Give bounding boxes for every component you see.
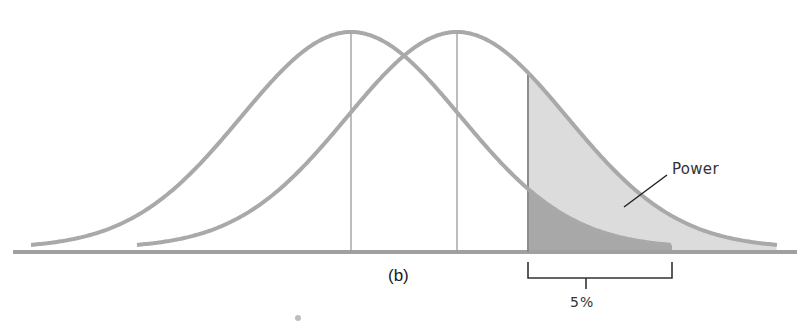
power-label: Power bbox=[672, 160, 719, 178]
alpha-bracket bbox=[528, 262, 672, 278]
speck bbox=[295, 315, 301, 321]
panel-label: (b) bbox=[388, 266, 409, 286]
alpha-label: 5% bbox=[570, 294, 594, 310]
